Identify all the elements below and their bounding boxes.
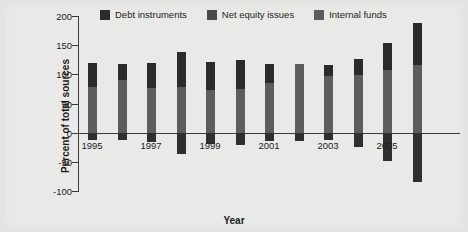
y-tick-label: -100 bbox=[53, 186, 72, 197]
y-tick bbox=[72, 191, 79, 192]
bar-2005[interactable] bbox=[383, 16, 392, 206]
bar-segment-debt-instruments bbox=[236, 60, 245, 89]
bar-segment-internal-funds bbox=[177, 87, 186, 133]
x-tick-label: 1999 bbox=[199, 140, 220, 151]
y-tick bbox=[72, 162, 79, 163]
bar-segment-internal-funds bbox=[354, 75, 363, 133]
bar-2003[interactable] bbox=[324, 16, 333, 206]
bar-segment-debt-instruments bbox=[324, 65, 333, 76]
y-tick-label: 50 bbox=[61, 98, 72, 109]
bar-segment-debt-instruments bbox=[147, 63, 156, 88]
y-tick-label: 200 bbox=[56, 11, 72, 22]
chart-figure: Debt instruments Net equity issues Inter… bbox=[0, 0, 468, 232]
bar-segment-debt-instruments bbox=[354, 59, 363, 75]
bar-segment-debt-instruments bbox=[383, 43, 392, 69]
bar-2004[interactable] bbox=[354, 16, 363, 206]
y-tick-label: 150 bbox=[56, 40, 72, 51]
bar-segment-internal-funds bbox=[236, 89, 245, 133]
y-tick bbox=[72, 45, 79, 46]
bar-segment-internal-funds bbox=[206, 90, 215, 133]
y-tick-label: 0 bbox=[67, 127, 72, 138]
bar-2000[interactable] bbox=[236, 16, 245, 206]
y-tick bbox=[72, 16, 79, 17]
x-tick-label: 1995 bbox=[81, 140, 102, 151]
x-tick-label: 2005 bbox=[376, 140, 397, 151]
bar-segment-net-equity-issues bbox=[236, 133, 245, 145]
bar-segment-net-equity-issues bbox=[295, 133, 304, 141]
bar-segment-internal-funds bbox=[118, 80, 127, 133]
bar-segment-internal-funds bbox=[413, 65, 422, 133]
x-axis-title: Year bbox=[0, 215, 468, 226]
bar-2001[interactable] bbox=[265, 16, 274, 206]
bar-1997[interactable] bbox=[147, 16, 156, 206]
bar-segment-net-equity-issues bbox=[177, 133, 186, 154]
x-tick-label: 1997 bbox=[140, 140, 161, 151]
x-tick-label: 2001 bbox=[258, 140, 279, 151]
bar-segment-debt-instruments bbox=[206, 62, 215, 90]
bar-segment-debt-instruments bbox=[88, 63, 97, 86]
bar-segment-debt-instruments bbox=[265, 64, 274, 83]
bar-2006[interactable] bbox=[413, 16, 422, 206]
plot-area: 200150100500-50-100 19951997199920012003… bbox=[78, 16, 460, 206]
x-tick-label: 2003 bbox=[317, 140, 338, 151]
bar-1995[interactable] bbox=[88, 16, 97, 206]
bar-1998[interactable] bbox=[177, 16, 186, 206]
bar-segment-net-equity-issues bbox=[354, 133, 363, 147]
bar-segment-debt-instruments bbox=[413, 23, 422, 65]
bar-segment-debt-instruments bbox=[118, 64, 127, 80]
bar-segment-internal-funds bbox=[147, 88, 156, 133]
bar-segment-net-equity-issues bbox=[118, 133, 127, 141]
bar-segment-internal-funds bbox=[265, 83, 274, 133]
bar-segment-internal-funds bbox=[295, 64, 304, 133]
y-tick-label: -50 bbox=[58, 156, 72, 167]
bar-1996[interactable] bbox=[118, 16, 127, 206]
y-tick bbox=[72, 104, 79, 105]
bar-segment-internal-funds bbox=[324, 76, 333, 133]
bar-segment-internal-funds bbox=[88, 87, 97, 133]
bar-2002[interactable] bbox=[295, 16, 304, 206]
y-tick bbox=[72, 74, 79, 75]
bar-1999[interactable] bbox=[206, 16, 215, 206]
bar-segment-debt-instruments bbox=[177, 52, 186, 87]
y-tick-label: 100 bbox=[56, 69, 72, 80]
bar-segment-net-equity-issues bbox=[413, 133, 422, 183]
bar-segment-internal-funds bbox=[383, 70, 392, 133]
